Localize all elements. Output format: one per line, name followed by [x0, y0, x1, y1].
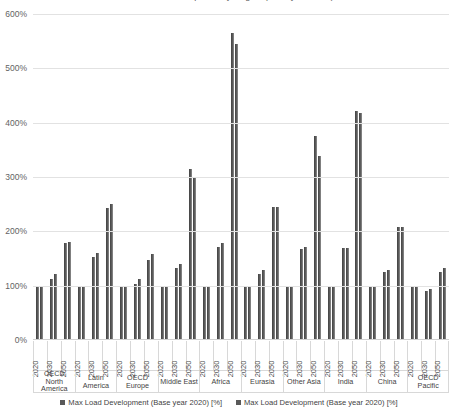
bar — [36, 286, 39, 340]
bar — [439, 272, 442, 340]
x-axis-baseline — [33, 339, 449, 340]
bar — [387, 270, 390, 340]
grid-line — [33, 14, 449, 15]
bar — [304, 247, 307, 340]
x-axis-region-label: Other Asia — [283, 371, 325, 393]
category-axis: 2020203020502020203020502020203020502020… — [33, 341, 449, 393]
chart-legend: Max Load Development (Base year 2020) [%… — [0, 398, 458, 407]
legend-swatch-icon — [60, 400, 65, 405]
legend-label: Max Load Development (Base year 2020) [%… — [68, 398, 222, 407]
bar — [217, 247, 220, 340]
bar — [332, 286, 335, 340]
bar — [443, 268, 446, 340]
legend-label: Max Load Development (Base year 2020) [%… — [244, 398, 398, 407]
bar — [68, 242, 71, 340]
legend-item: Max Load Development (Base year 2020) [%… — [60, 398, 222, 407]
bar — [92, 257, 95, 340]
x-axis-region-label: OECD Europe — [116, 371, 158, 393]
bar — [175, 268, 178, 340]
bar — [50, 279, 53, 340]
bar — [235, 44, 238, 340]
bar — [151, 254, 154, 340]
y-axis: 0%100%200%300%400%500%600% — [0, 14, 31, 341]
bar — [207, 286, 210, 340]
bar — [96, 253, 99, 340]
bar — [78, 286, 81, 340]
bar — [248, 286, 251, 340]
x-axis-region-label: OECD Pacific — [407, 371, 449, 393]
bar — [165, 286, 168, 340]
bar — [40, 286, 43, 340]
x-axis-region-label: India — [324, 371, 366, 393]
y-axis-tick-label: 100% — [5, 281, 27, 291]
bar — [300, 249, 303, 340]
bar — [272, 207, 275, 340]
x-axis-region-label: Middle East — [158, 371, 200, 393]
bar — [286, 286, 289, 340]
bar — [147, 260, 150, 340]
bar — [203, 286, 206, 340]
bar — [231, 33, 234, 340]
bar — [369, 286, 372, 340]
bar — [258, 274, 261, 340]
bar — [429, 289, 432, 340]
bar — [415, 286, 418, 340]
y-axis-tick-label: 200% — [5, 226, 27, 236]
bar — [244, 286, 247, 340]
grid-line — [33, 123, 449, 124]
bar-chart: Max Load Development by Region (Base yea… — [0, 0, 458, 414]
bar — [373, 286, 376, 340]
bar — [355, 111, 358, 340]
bar — [189, 169, 192, 340]
bar — [82, 286, 85, 340]
grid-line — [33, 231, 449, 232]
x-axis-region-label: Africa — [199, 371, 241, 393]
bar — [138, 279, 141, 340]
bar — [401, 227, 404, 340]
bar — [262, 270, 265, 340]
y-axis-tick-label: 0% — [15, 335, 27, 345]
plot-area — [33, 14, 449, 340]
legend-item: Max Load Development (Base year 2020) [%… — [236, 398, 398, 407]
bar — [425, 291, 428, 340]
chart-title: Max Load Development by Region (Base yea… — [0, 0, 458, 2]
bar — [193, 178, 196, 340]
bar — [397, 227, 400, 340]
x-axis-region-label: OECD North America — [33, 371, 75, 393]
bar — [290, 286, 293, 340]
bar — [318, 156, 321, 340]
bar — [179, 264, 182, 340]
bar — [134, 284, 137, 340]
grid-line — [33, 286, 449, 287]
x-axis-year-cell: 2050 — [435, 341, 449, 371]
y-axis-tick-label: 600% — [5, 9, 27, 19]
bar — [328, 286, 331, 340]
x-axis-region-label: China — [366, 371, 408, 393]
bar — [314, 136, 317, 340]
legend-swatch-icon — [236, 400, 241, 405]
bar — [106, 208, 109, 340]
x-axis-region-label: Eurasia — [241, 371, 283, 393]
bar — [411, 286, 414, 340]
y-axis-tick-label: 300% — [5, 172, 27, 182]
bar — [64, 243, 67, 340]
bar — [161, 286, 164, 340]
bar — [110, 204, 113, 340]
bar — [124, 286, 127, 340]
grid-line — [33, 177, 449, 178]
bar — [342, 248, 345, 340]
bar — [221, 243, 224, 340]
bar — [346, 248, 349, 340]
bar — [120, 286, 123, 340]
grid-line — [33, 68, 449, 69]
x-axis-region-label: Latin America — [75, 371, 117, 393]
y-axis-tick-label: 400% — [5, 118, 27, 128]
bar — [276, 207, 279, 340]
bar — [383, 272, 386, 340]
bar — [359, 113, 362, 340]
bar — [54, 274, 57, 340]
y-axis-tick-label: 500% — [5, 63, 27, 73]
